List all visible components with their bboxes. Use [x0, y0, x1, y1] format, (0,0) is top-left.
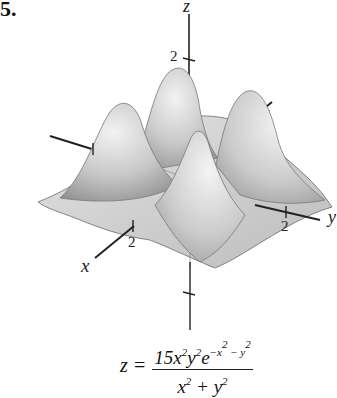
z-tick-label: 2	[170, 48, 178, 65]
equation-denominator: x2 + y2	[177, 370, 227, 398]
x-tick-label: 2	[128, 234, 136, 251]
equation-lhs: z =	[120, 354, 146, 377]
equation-fraction: 15x2y2e−x2 − y2 x2 + y2	[152, 333, 252, 398]
y-axis-label: y	[328, 207, 336, 228]
z-axis-label: z	[183, 0, 190, 17]
surface-equation: z = 15x2y2e−x2 − y2 x2 + y2	[120, 333, 253, 398]
y-tick-label: 2	[281, 218, 289, 235]
x-axis-label: x	[81, 255, 89, 277]
equation-numerator: 15x2y2e−x2 − y2	[152, 333, 252, 370]
